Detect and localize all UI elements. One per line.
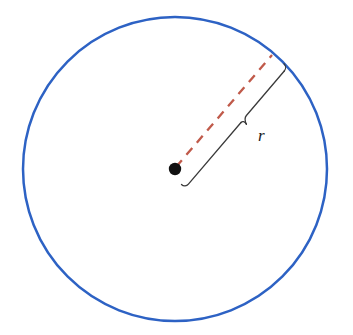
radius-dashed-line <box>176 55 272 167</box>
radius-brace <box>182 64 286 186</box>
radius-label: r <box>258 126 265 145</box>
circle-radius-diagram: r <box>0 0 353 335</box>
diagram-canvas: r <box>0 0 353 335</box>
center-point <box>169 163 181 175</box>
